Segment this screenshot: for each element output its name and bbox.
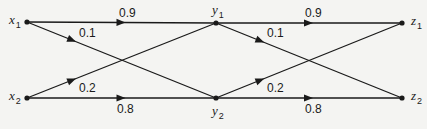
arrowhead-icon bbox=[66, 75, 77, 85]
node-label-y1: y1 bbox=[210, 2, 224, 20]
labels-layer: 0.90.10.20.80.90.10.20.8x1x2y1y2z1z2 bbox=[8, 2, 422, 121]
node-y2 bbox=[213, 95, 218, 100]
transition-diagram: 0.90.10.20.80.90.10.20.8x1x2y1y2z1z2 bbox=[0, 0, 427, 129]
edge-weight-label: 0.2 bbox=[267, 81, 284, 95]
arrowhead-icon bbox=[255, 75, 266, 85]
node-z2 bbox=[399, 95, 404, 100]
arrowhead-icon bbox=[66, 35, 77, 45]
edge-y2-z2 bbox=[216, 94, 402, 101]
edge-x2-y2 bbox=[27, 94, 216, 101]
arrowhead-icon bbox=[117, 94, 126, 101]
node-y1 bbox=[213, 20, 218, 25]
edge-weight-label: 0.8 bbox=[305, 102, 322, 116]
edge-y1-z1 bbox=[216, 19, 402, 26]
edge-weight-label: 0.8 bbox=[117, 102, 134, 116]
node-x1 bbox=[24, 19, 29, 24]
edge-weight-label: 0.2 bbox=[79, 81, 96, 95]
node-z1 bbox=[399, 20, 404, 25]
node-label-z1: z1 bbox=[410, 13, 422, 31]
node-label-x1: x1 bbox=[8, 12, 21, 30]
node-x2 bbox=[24, 95, 29, 100]
node-label-y2: y2 bbox=[210, 103, 224, 121]
node-label-z2: z2 bbox=[410, 88, 422, 106]
edge-weight-label: 0.9 bbox=[119, 6, 136, 20]
arrowhead-icon bbox=[304, 94, 313, 101]
diagram-svg: 0.90.10.20.80.90.10.20.8x1x2y1y2z1z2 bbox=[0, 0, 427, 129]
edge-weight-label: 0.9 bbox=[305, 6, 322, 20]
arrowhead-icon bbox=[255, 36, 266, 46]
node-label-x2: x2 bbox=[8, 88, 21, 106]
edge-weight-label: 0.1 bbox=[79, 26, 96, 40]
edge-weight-label: 0.1 bbox=[267, 26, 284, 40]
arrowhead-icon bbox=[304, 19, 313, 26]
